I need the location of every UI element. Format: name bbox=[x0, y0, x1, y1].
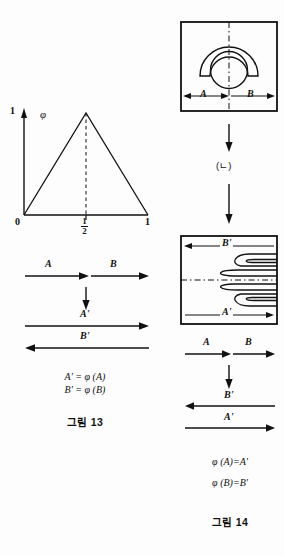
arrow-Bprime-head bbox=[25, 344, 35, 352]
box-arrow-A-tail-head bbox=[183, 93, 191, 99]
box-arrow-B-head bbox=[267, 93, 275, 99]
box-arrow-A-head bbox=[221, 93, 229, 99]
arrow-label-A: A bbox=[45, 258, 52, 269]
step-label: (ㄴ) bbox=[216, 158, 231, 172]
figure14-equation-1: φ (A)=A' bbox=[178, 456, 282, 467]
tent-map-plot: 1 φ 0 1 2 1 bbox=[0, 96, 170, 226]
box-label-B-prime: B' bbox=[220, 237, 233, 248]
tent-map-svg bbox=[0, 96, 170, 226]
figure13-equation-2: B' = φ (B) bbox=[0, 384, 170, 395]
arrow-label-A: A bbox=[203, 336, 210, 347]
figure14-caption: 그림 14 bbox=[178, 514, 282, 529]
lower-lobe-inner bbox=[246, 298, 277, 301]
box-label-A-prime: A' bbox=[220, 306, 233, 317]
x-axis-origin-label: 0 bbox=[15, 216, 20, 227]
figure14-top-box: A B bbox=[178, 19, 282, 119]
arrow-label-A-prime: A' bbox=[224, 411, 233, 422]
figure13-equation-1: A' = φ (A) bbox=[0, 371, 170, 382]
figure14-equation-2: φ (B)=B' bbox=[178, 477, 282, 488]
arrow-label-B-prime: B' bbox=[224, 389, 233, 400]
figure14-arrow-diagram: A B B' A' bbox=[178, 336, 282, 436]
arrow-A-head bbox=[79, 272, 89, 280]
y-axis-arrowhead bbox=[21, 108, 27, 118]
function-symbol-phi: φ bbox=[40, 108, 46, 120]
box-label-B: B bbox=[247, 88, 254, 99]
x-axis-half-label: 1 2 bbox=[81, 217, 88, 236]
lower-lobe-outer2 bbox=[221, 284, 277, 290]
upper-lobe-outer2 bbox=[221, 270, 277, 276]
transition-arrow-1-head bbox=[225, 142, 232, 152]
figure14-equations: φ (A)=A' φ (B)=B' bbox=[178, 456, 282, 488]
arrow-B-head bbox=[266, 350, 275, 357]
figure13-arrow-diagram: A B A' B' bbox=[0, 258, 170, 358]
figure14-bottom-box: B' A' bbox=[178, 233, 282, 330]
arrow-Aprime-head bbox=[139, 322, 149, 330]
figure14-transition: (ㄴ) bbox=[178, 122, 282, 228]
arrow-Aprime-head bbox=[266, 424, 275, 431]
half-denominator: 2 bbox=[81, 227, 88, 236]
box-label-A: A bbox=[200, 88, 207, 99]
arrow-A-head bbox=[222, 350, 231, 357]
x-axis-end-label: 1 bbox=[145, 216, 150, 227]
upper-lobe-inner bbox=[246, 260, 277, 263]
figure14-transition-svg bbox=[178, 122, 282, 228]
box-arrow-Aprime-head bbox=[266, 312, 274, 318]
figure13-equations: A' = φ (A) B' = φ (B) bbox=[0, 371, 170, 395]
arrow-label-A-prime: A' bbox=[80, 308, 89, 319]
arrow-label-B-prime: B' bbox=[80, 330, 89, 341]
half-numerator: 1 bbox=[81, 217, 88, 226]
box-arrow-Bprime-head bbox=[184, 243, 192, 249]
y-axis-top-label: 1 bbox=[10, 105, 15, 116]
figure-page: 1 φ 0 1 2 1 A bbox=[0, 0, 284, 556]
arrow-Bprime-head bbox=[185, 402, 194, 409]
figure13-caption: 그림 13 bbox=[0, 414, 170, 429]
arrow-label-B: B bbox=[245, 336, 252, 347]
figure14-top-box-svg bbox=[178, 19, 282, 119]
arrow-label-B: B bbox=[110, 258, 117, 269]
transform-arrow-head bbox=[225, 379, 232, 389]
arrow-B-head bbox=[139, 272, 149, 280]
transition-arrow-2-head bbox=[225, 214, 232, 224]
